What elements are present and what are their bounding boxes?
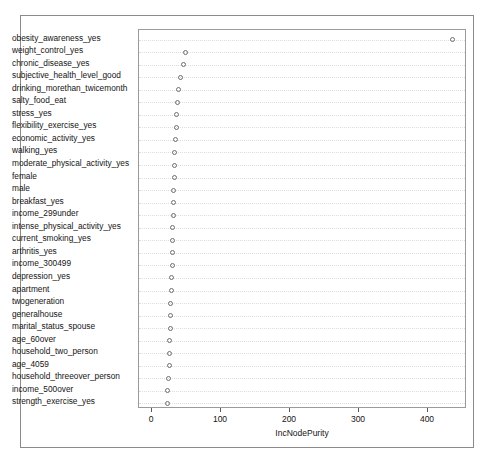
x-axis-tick-label: 300 (338, 414, 378, 424)
x-axis-title: IncNodePurity (138, 428, 466, 438)
x-axis-tick (358, 408, 359, 412)
x-axis-tick (220, 408, 221, 412)
x-axis-tick-label: 400 (407, 414, 447, 424)
x-axis-tick (151, 408, 152, 412)
dotchart-plot: obesity_awareness_yesweight_control_yesc… (0, 0, 489, 462)
x-axis-tick-label: 0 (131, 414, 171, 424)
x-axis-tick (427, 408, 428, 412)
x-axis-tick-label: 200 (269, 414, 309, 424)
x-axis: 0100200300400 IncNodePurity (0, 0, 489, 462)
x-axis-tick-label: 100 (200, 414, 240, 424)
x-axis-tick (289, 408, 290, 412)
